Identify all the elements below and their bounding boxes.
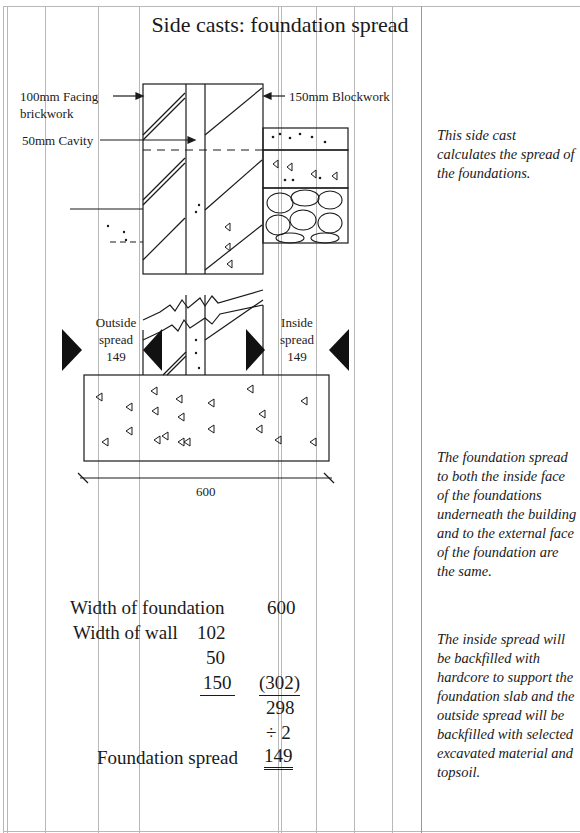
facing-brickwork-label: 100mm Facing brickwork	[20, 88, 98, 122]
wall-outline	[143, 84, 263, 274]
inside-spread-marker-icon	[329, 329, 349, 371]
outside-spread-marker-icon	[62, 329, 82, 371]
note-backfill: The inside spread will be backfilled wit…	[437, 630, 577, 782]
calc-label-foundation-width: Width of foundation	[70, 595, 224, 620]
inside-spread-label: Inside spread 149	[272, 314, 322, 365]
outside-spread-label: Outside spread 149	[88, 314, 144, 365]
calc-value-102: 102	[197, 620, 226, 645]
foundation-block	[84, 375, 329, 461]
cavity-label: 50mm Cavity	[22, 132, 93, 149]
note-side-cast-purpose: This side cast calculates the spread of …	[437, 126, 577, 183]
note-spread-equal: The foundation spread to both the inside…	[437, 448, 577, 581]
calc-label-wall-width: Width of wall	[73, 620, 178, 645]
calc-result-149: 149	[264, 745, 293, 770]
calc-value-298: 298	[266, 695, 295, 720]
calc-divide-2: ÷ 2	[266, 720, 291, 745]
calc-value-302: (302)	[259, 670, 300, 696]
calc-value-600: 600	[267, 595, 296, 620]
blockwork-label: 150mm Blockwork	[289, 88, 390, 105]
calc-value-50: 50	[206, 645, 225, 670]
calc-value-150: 150	[200, 670, 235, 696]
calc-label-foundation-spread: Foundation spread	[97, 745, 238, 770]
foundation-width-dimension: 600	[196, 483, 216, 500]
